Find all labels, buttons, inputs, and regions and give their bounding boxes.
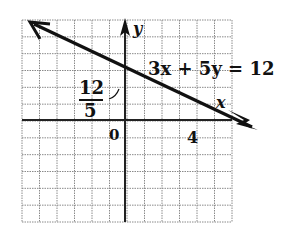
coordinate-graph: y x 3x + 5y = 12 0 4 12 5 [0,0,288,228]
fraction-denominator: 5 [84,100,97,121]
x-axis-label: x [215,93,226,112]
y-intercept-fraction: 12 5 [79,77,104,121]
fraction-numerator: 12 [79,77,104,98]
intercept-pointer [109,89,119,99]
y-axis-label: y [132,19,144,38]
x-intercept-label: 4 [187,128,198,147]
origin-label: 0 [109,126,119,144]
equation-label: 3x + 5y = 12 [148,58,275,79]
